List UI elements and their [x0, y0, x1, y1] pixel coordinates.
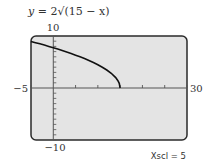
- y-min-label: −10: [44, 142, 65, 153]
- graph-figure: y = 2√(15 − x) 10 −10 −5 30 Xscl = 5: [0, 0, 209, 164]
- chart-title: y = 2√(15 − x): [27, 5, 109, 18]
- y-max-label: 10: [47, 22, 60, 33]
- xscl-annotation: Xscl = 5: [151, 151, 186, 161]
- x-min-label: −5: [13, 83, 28, 94]
- title-eq: = 2: [34, 5, 57, 18]
- title-radicand: (15 − x): [64, 5, 109, 18]
- x-max-label: 30: [190, 83, 203, 94]
